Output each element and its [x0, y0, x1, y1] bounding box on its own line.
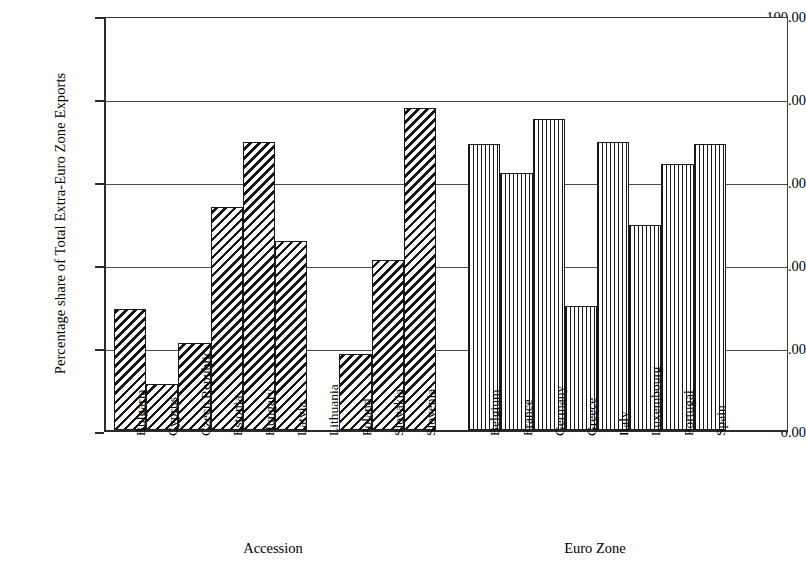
x-axis-tick-label: Germany — [553, 386, 567, 436]
x-axis-tick-label: Italy — [617, 411, 631, 436]
x-axis-tick-label: Bulgaria — [134, 390, 148, 437]
x-axis-tick-label: Latvia — [295, 402, 309, 436]
bar — [404, 108, 436, 430]
group-label: Euro Zone — [495, 540, 695, 557]
bar-chart-figure: Percentage share of Total Extra-Euro Zon… — [0, 0, 806, 565]
x-axis-tick-label: Poland — [360, 398, 374, 436]
x-axis-tick-label: France — [521, 399, 535, 436]
x-axis-tick-label: Spain — [714, 405, 728, 436]
bar — [500, 173, 532, 430]
y-axis-tick-mark — [95, 349, 104, 351]
y-axis-tick-mark — [95, 100, 104, 102]
x-axis-tick-label: Cyprus — [166, 397, 180, 436]
y-axis-tick-mark — [95, 17, 104, 19]
bar — [468, 144, 500, 430]
x-axis-tick-label: Portugal — [682, 390, 696, 436]
x-axis-tick-label: Slovakia — [392, 389, 406, 436]
x-axis-tick-label: Lithuania — [327, 384, 341, 436]
y-axis-title: Percentage share of Total Extra-Euro Zon… — [52, 14, 69, 434]
x-axis-tick-label: Belgium — [488, 390, 502, 437]
bar — [243, 142, 275, 430]
x-axis-tick-label: Slovenia — [424, 389, 438, 436]
x-axis-tick-label: Greece — [585, 398, 599, 436]
y-axis-tick-mark — [95, 183, 104, 185]
bar — [597, 142, 629, 430]
bar — [694, 144, 726, 430]
y-axis-tick-mark — [95, 266, 104, 268]
x-axis-tick-label: Hungary — [263, 389, 277, 436]
x-axis-tick-label: Luxembourg — [649, 367, 663, 437]
y-axis-tick-mark — [95, 432, 104, 434]
group-label: Accession — [173, 540, 373, 557]
x-axis-tick-label: Czech Republic — [199, 350, 213, 436]
x-axis-tick-label: Estonia — [231, 396, 245, 437]
bar — [533, 119, 565, 430]
